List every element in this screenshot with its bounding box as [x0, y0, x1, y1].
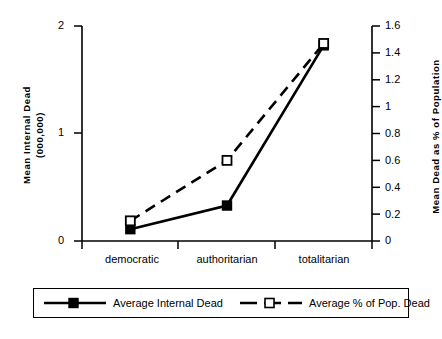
- data-point-authoritarian: [223, 156, 232, 165]
- series-line-average-pct-pop-dead: [130, 43, 323, 220]
- y-axis-left-tick-1: 1: [42, 127, 64, 138]
- legend-entry-average-internal-dead: Average Internal Dead: [44, 289, 223, 317]
- y-axis-right-tick-0_2: 0.2: [385, 209, 400, 220]
- y-axis-left-tick-2: 2: [42, 20, 64, 31]
- legend: Average Internal Dead Average % of Pop. …: [33, 288, 409, 318]
- y-axis-left-ticks: [74, 26, 82, 241]
- y-axis-right-tick-0_8: 0.8: [385, 128, 400, 139]
- series-markers-average-internal-dead: [126, 41, 328, 234]
- legend-swatch-dashed-open-square: [240, 296, 302, 310]
- y-axis-right-tick-0: 0: [385, 235, 391, 246]
- data-point-authoritarian: [223, 201, 232, 210]
- y-axis-right-ticks: [372, 26, 380, 241]
- y-axis-right-tick-1: 1: [385, 101, 391, 112]
- data-point-totalitarian: [319, 39, 328, 48]
- legend-entry-average-pct-pop-dead: Average % of Pop. Dead: [240, 289, 430, 317]
- y-axis-left-tick-0: 0: [42, 235, 64, 246]
- y-axis-right-tick-1_6: 1.6: [385, 20, 400, 31]
- legend-label-average-pct-pop-dead: Average % of Pop. Dead: [309, 297, 430, 309]
- y-axis-right-tick-0_6: 0.6: [385, 155, 400, 166]
- y-axis-right-tick-1_4: 1.4: [385, 47, 400, 58]
- x-axis-ticks: [82, 241, 372, 249]
- y-axis-right-tick-1_2: 1.2: [385, 74, 400, 85]
- data-point-democratic: [126, 216, 135, 225]
- series-markers-average-pct-pop-dead: [126, 39, 328, 225]
- x-axis-category-totalitarian: totalitarian: [264, 253, 384, 265]
- y-axis-right-tick-0_4: 0.4: [385, 182, 400, 193]
- legend-label-average-internal-dead: Average Internal Dead: [113, 297, 223, 309]
- legend-swatch-solid-filled-square: [44, 296, 106, 310]
